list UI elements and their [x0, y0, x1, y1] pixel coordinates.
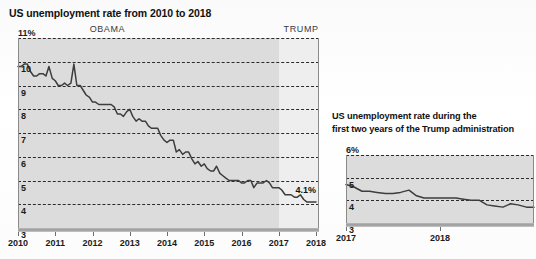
data-point-annotation: 4.1%	[296, 185, 317, 195]
y-axis-tick-label: 9	[21, 88, 26, 98]
x-axis-tick	[93, 232, 94, 236]
era-label-obama: OBAMA	[90, 24, 126, 34]
left-series-line	[18, 38, 319, 228]
y-axis-tick-label: 5	[349, 180, 354, 190]
y-axis-tick-label: 11%	[18, 28, 36, 38]
x-axis-tick-label: 2014	[157, 238, 177, 248]
y-axis-tick-label: 10	[21, 64, 31, 74]
x-axis-tick-label: 2018	[306, 238, 326, 248]
right-chart-plot-area	[346, 155, 534, 223]
x-axis-tick-label: 2016	[231, 238, 251, 248]
x-axis-tick-label: 2013	[120, 238, 140, 248]
left-chart-title: US unemployment rate from 2010 to 2018	[9, 7, 211, 19]
x-axis-tick	[242, 232, 243, 236]
x-axis-tick	[18, 232, 19, 236]
left-x-axis-line	[18, 228, 319, 232]
x-axis-tick	[279, 232, 280, 236]
left-chart-plot-area	[18, 38, 319, 228]
x-axis-tick	[167, 232, 168, 236]
y-axis-tick-label: 4	[21, 206, 26, 216]
x-axis-tick-label: 2011	[45, 238, 65, 248]
right-chart-panel: US unemployment rate during the first tw…	[325, 0, 536, 259]
right-chart-title: US unemployment rate during the first tw…	[332, 110, 514, 136]
x-axis-tick-label: 2010	[8, 238, 28, 248]
x-axis-tick	[55, 232, 56, 236]
x-axis-tick-label: 2017	[269, 238, 289, 248]
x-axis-tick-label: 2012	[82, 238, 102, 248]
x-axis-tick-label: 2015	[194, 238, 214, 248]
x-axis-tick	[316, 232, 317, 236]
y-axis-tick-label: 6	[21, 159, 26, 169]
x-axis-tick-label: 2018	[430, 233, 450, 243]
y-axis-tick-label: 8	[21, 111, 26, 121]
right-chart-title-line1: US unemployment rate during the	[332, 110, 514, 123]
right-chart-title-line2: first two years of the Trump administrat…	[332, 123, 514, 136]
unemployment-rate-line	[18, 64, 316, 202]
x-axis-tick	[204, 232, 205, 236]
unemployment-rate-line	[346, 184, 534, 207]
x-axis-tick	[130, 232, 131, 236]
x-axis-tick	[346, 227, 347, 231]
right-series-line	[346, 155, 534, 223]
left-chart-panel: US unemployment rate from 2010 to 2018 1…	[0, 0, 320, 259]
x-axis-tick-label: 2017	[336, 233, 356, 243]
era-label-trump: TRUMP	[284, 24, 319, 34]
y-axis-tick-label: 7	[21, 135, 26, 145]
y-axis-tick-label: 5	[21, 183, 26, 193]
y-axis-tick-label: 4	[349, 202, 354, 212]
x-axis-tick	[440, 227, 441, 231]
y-axis-tick-label: 6%	[346, 145, 359, 155]
